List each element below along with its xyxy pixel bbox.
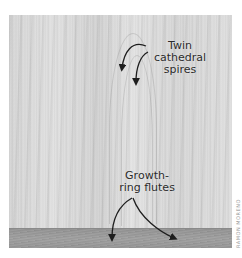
label-twin-cathedral-spires: Twin cathedral spires bbox=[150, 40, 210, 76]
grain-spire-right bbox=[121, 55, 153, 226]
end-grain-board bbox=[9, 228, 232, 248]
label-line: ring flutes bbox=[112, 182, 182, 194]
label-growth-ring-flutes: Growth- ring flutes bbox=[112, 170, 182, 194]
photo-credit: RAMON MORENO bbox=[235, 199, 241, 248]
label-line: spires bbox=[150, 64, 210, 76]
